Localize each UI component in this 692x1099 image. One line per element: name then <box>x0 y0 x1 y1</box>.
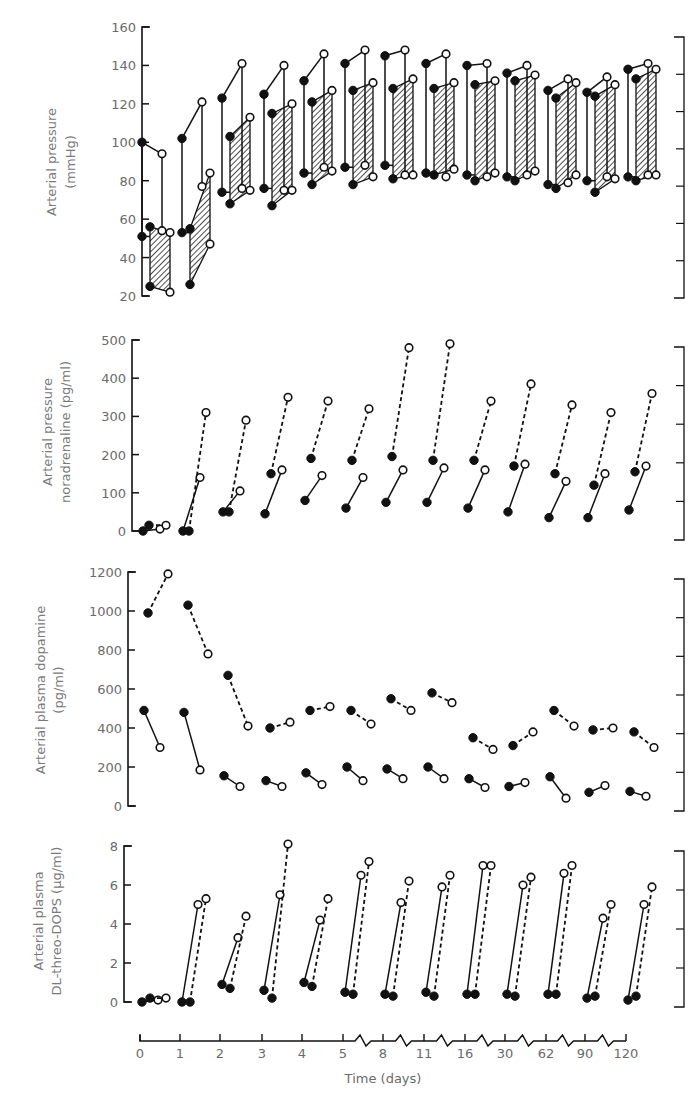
data-point-after <box>361 46 369 54</box>
data-point-before <box>308 180 316 188</box>
data-point-after <box>324 397 332 405</box>
data-point-after <box>278 783 286 791</box>
data-point-after <box>401 46 409 54</box>
data-point-before <box>145 521 153 529</box>
data-point-before <box>583 177 591 185</box>
data-point-before <box>186 280 194 288</box>
y-tick-label: 400 <box>101 371 126 386</box>
data-point-before <box>226 984 234 992</box>
y-tick-label: 8 <box>110 839 118 854</box>
data-point-after <box>361 162 369 170</box>
y-tick-label: 60 <box>119 212 136 227</box>
data-point-after <box>483 173 491 181</box>
data-point-before <box>348 456 356 464</box>
data-point-before <box>550 706 558 714</box>
data-point-before <box>583 994 591 1002</box>
data-point-after <box>326 703 334 711</box>
data-point-after <box>206 240 214 248</box>
data-point-before <box>268 201 276 209</box>
data-point-after <box>244 722 252 730</box>
data-point-before <box>632 177 640 185</box>
data-point-after <box>450 165 458 173</box>
data-point-after <box>568 862 576 870</box>
data-point-before <box>632 992 640 1000</box>
data-point-after <box>564 179 572 187</box>
data-point-before <box>544 86 552 94</box>
data-point-before <box>381 52 389 60</box>
data-point-before <box>138 232 146 240</box>
data-point-before <box>591 992 599 1000</box>
y-tick-label: 1000 <box>89 604 122 619</box>
data-point-after <box>369 79 377 87</box>
data-point-after <box>440 775 448 783</box>
data-point-after <box>162 994 170 1002</box>
y-tick-label: 0 <box>110 995 118 1010</box>
data-point-before <box>422 59 430 67</box>
data-point-after <box>438 883 446 891</box>
data-point-after <box>202 409 210 417</box>
data-point-before <box>552 184 560 192</box>
y-tick-label: 80 <box>119 174 136 189</box>
data-point-before <box>308 982 316 990</box>
data-point-before <box>591 92 599 100</box>
arterial-pressure-ylabel-1: Arterial pressure <box>44 108 59 216</box>
data-point-before <box>266 724 274 732</box>
data-point-before <box>430 171 438 179</box>
data-point-before <box>140 706 148 714</box>
data-point-before <box>509 741 517 749</box>
data-point-before <box>218 94 226 102</box>
data-point-after <box>242 912 250 920</box>
data-point-before <box>262 776 270 784</box>
data-point-after <box>206 169 214 177</box>
data-point-before <box>146 223 154 231</box>
data-point-after <box>246 187 254 195</box>
data-point-before <box>224 671 232 679</box>
arterial-pressure-right-frame <box>674 37 684 298</box>
data-point-before <box>186 225 194 233</box>
x-tick-label: 0 <box>136 1046 144 1061</box>
data-point-after <box>405 344 413 352</box>
data-point-before <box>178 134 186 142</box>
data-point-after <box>162 521 170 529</box>
data-point-before <box>503 173 511 181</box>
data-point-after <box>280 187 288 195</box>
data-point-before <box>471 177 479 185</box>
data-point-after <box>166 288 174 296</box>
dops-ylabel-2: DL-threo-DOPS (µg/ml) <box>49 847 64 996</box>
data-point-after <box>491 77 499 85</box>
data-point-before <box>268 109 276 117</box>
data-point-after <box>442 173 450 181</box>
data-point-after <box>198 98 206 106</box>
data-point-before <box>544 990 552 998</box>
data-point-after <box>570 722 578 730</box>
x-tick-label: 5 <box>339 1046 347 1061</box>
data-point-before <box>389 84 397 92</box>
x-tick-label: 62 <box>538 1046 555 1061</box>
data-point-before <box>383 765 391 773</box>
data-point-after <box>280 62 288 70</box>
data-point-after <box>481 466 489 474</box>
y-tick-label: 140 <box>111 58 136 73</box>
data-point-after <box>284 840 292 848</box>
data-point-before <box>503 69 511 77</box>
y-tick-label: 500 <box>101 333 126 348</box>
data-point-after <box>288 100 296 108</box>
data-point-before <box>178 998 186 1006</box>
data-point-before <box>308 98 316 106</box>
x-tick-label: 120 <box>614 1046 639 1061</box>
dops-ylabel-1: Arterial plasma <box>31 871 46 970</box>
noradrenaline-right-frame <box>674 347 684 540</box>
dose2-range-box <box>393 79 413 179</box>
data-point-after <box>644 171 652 179</box>
y-tick-label: 600 <box>97 682 122 697</box>
data-point-after <box>198 183 206 191</box>
y-tick-label: 0 <box>118 524 126 539</box>
figure: 16014012010080604020 Arterial pressure (… <box>0 0 692 1099</box>
y-tick-label: 100 <box>111 135 136 150</box>
data-point-after <box>568 401 576 409</box>
data-point-after <box>650 744 658 752</box>
data-point-before <box>464 504 472 512</box>
data-point-before <box>389 992 397 1000</box>
data-point-before <box>301 496 309 504</box>
y-tick-label: 40 <box>119 251 136 266</box>
